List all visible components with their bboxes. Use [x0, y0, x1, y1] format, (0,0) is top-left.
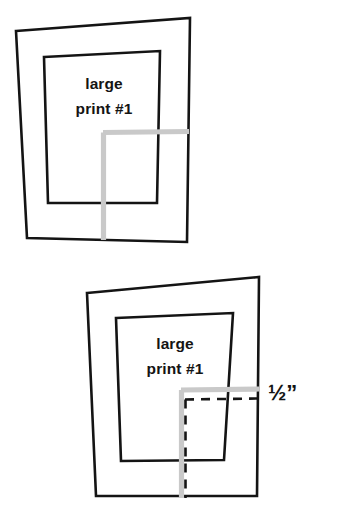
top-figure-group: large print #1: [16, 18, 190, 242]
top-figure-guide-horizontal: [103, 132, 189, 133]
bottom-figure-label-line2: print #1: [147, 360, 204, 377]
top-figure-label-line1: large: [85, 75, 123, 92]
bottom-figure-label-line1: large: [156, 335, 194, 352]
diagram-root: large print #1 large print #1 ½”: [0, 0, 341, 525]
bottom-figure-mat-outline: [87, 277, 259, 496]
top-figure-label-line2: print #1: [76, 100, 133, 117]
mat-cutting-diagram: large print #1 large print #1 ½”: [0, 0, 341, 525]
bottom-figure-guide-horizontal: [181, 389, 259, 390]
bottom-figure-group: large print #1 ½”: [87, 277, 297, 498]
half-inch-dimension-label: ½”: [268, 380, 297, 405]
